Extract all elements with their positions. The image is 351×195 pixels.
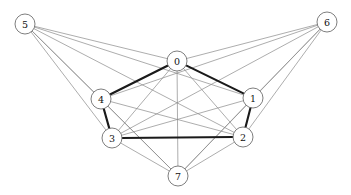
- graph-edge-5-2: [33, 28, 234, 132]
- graph-node-circle-0[interactable]: [167, 51, 187, 71]
- graph-edge-5-0: [34, 26, 168, 59]
- graph-edge-6-0: [186, 24, 318, 58]
- graph-edge-1-2: [245, 107, 250, 128]
- graph-node-5[interactable]: 5: [15, 14, 35, 34]
- graph-edge-3-4: [104, 108, 110, 129]
- graph-edge-2-7: [186, 142, 235, 171]
- graph-node-circle-4[interactable]: [91, 89, 111, 109]
- graph-node-1[interactable]: 1: [243, 88, 263, 108]
- graph-figure: 01234567: [0, 0, 351, 195]
- graph-edge-0-1: [186, 65, 245, 94]
- graph-node-circle-6[interactable]: [317, 12, 337, 32]
- thin-edge-layer: [31, 24, 322, 171]
- graph-node-7[interactable]: 7: [168, 166, 188, 186]
- node-layer: 01234567: [15, 12, 337, 186]
- graph-node-circle-3[interactable]: [102, 128, 122, 148]
- graph-edge-6-3: [120, 27, 318, 134]
- graph-node-2[interactable]: 2: [233, 127, 253, 147]
- graph-node-circle-5[interactable]: [15, 14, 35, 34]
- graph-canvas: 01234567: [0, 0, 351, 195]
- graph-node-4[interactable]: 4: [91, 89, 111, 109]
- graph-node-6[interactable]: 6: [317, 12, 337, 32]
- graph-edge-3-7: [120, 143, 170, 172]
- graph-node-0[interactable]: 0: [167, 51, 187, 71]
- graph-edge-0-7: [177, 70, 178, 166]
- graph-node-circle-2[interactable]: [233, 127, 253, 147]
- graph-node-circle-7[interactable]: [168, 166, 188, 186]
- graph-node-circle-1[interactable]: [243, 88, 263, 108]
- graph-edge-0-4: [109, 65, 168, 95]
- graph-edge-2-3: [121, 137, 233, 138]
- graph-node-3[interactable]: 3: [102, 128, 122, 148]
